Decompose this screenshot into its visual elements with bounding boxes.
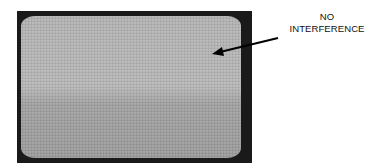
annotation-line-2: INTERFERENCE — [282, 23, 372, 35]
annotation-line-1: NO — [282, 11, 372, 23]
annotation-label: NO INTERFERENCE — [282, 11, 372, 35]
